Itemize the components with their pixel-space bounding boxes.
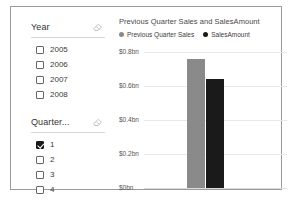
slicer-item-q4[interactable]: 4 bbox=[31, 182, 105, 197]
legend-swatch-icon bbox=[119, 32, 124, 37]
legend-label: SalesAmount bbox=[211, 31, 250, 38]
legend-item-salesamount[interactable]: SalesAmount bbox=[203, 31, 250, 38]
slicer-item-label: 2 bbox=[50, 156, 54, 164]
y-axis-label: $0.8bn bbox=[119, 48, 139, 55]
eraser-icon[interactable] bbox=[92, 21, 103, 32]
slicer-item-q1[interactable]: 1 bbox=[31, 137, 105, 152]
slicer-quarter-items: 1 2 3 4 bbox=[31, 137, 105, 197]
y-axis-label: $0.2bn bbox=[119, 150, 139, 157]
slicer-year-header: Year bbox=[31, 19, 105, 34]
slicer-item-label: 3 bbox=[50, 171, 54, 179]
y-axis-label: $0.4bn bbox=[119, 116, 139, 123]
slicer-item-2005[interactable]: 2005 bbox=[31, 42, 105, 57]
slicer-year-divider bbox=[31, 37, 105, 38]
slicer-year-items: 2005 2006 2007 2008 bbox=[31, 42, 105, 102]
slicer-year-title: Year bbox=[31, 22, 50, 32]
slicer-item-label: 2007 bbox=[50, 76, 68, 84]
slicer-item-2007[interactable]: 2007 bbox=[31, 72, 105, 87]
checkbox-q4[interactable] bbox=[36, 186, 44, 194]
slicer-item-2006[interactable]: 2006 bbox=[31, 57, 105, 72]
slicer-item-2008[interactable]: 2008 bbox=[31, 87, 105, 102]
eraser-icon[interactable] bbox=[92, 116, 103, 127]
report-canvas: Year 2005 2006 2007 bbox=[0, 0, 293, 202]
checkbox-2005[interactable] bbox=[36, 46, 44, 54]
slicer-quarter-header: Quarter... bbox=[31, 114, 105, 129]
bar-salesamount[interactable] bbox=[206, 79, 224, 188]
slicer-item-q3[interactable]: 3 bbox=[31, 167, 105, 182]
slicer-item-label: 2005 bbox=[50, 46, 68, 54]
chart-title: Previous Quarter Sales and SalesAmount bbox=[119, 17, 260, 26]
bar-group bbox=[144, 44, 287, 188]
checkbox-q2[interactable] bbox=[36, 156, 44, 164]
legend-label: Previous Quarter Sales bbox=[127, 31, 194, 38]
checkbox-2007[interactable] bbox=[36, 76, 44, 84]
slicer-quarter[interactable]: Quarter... 1 2 3 bbox=[31, 114, 105, 192]
y-axis-label: $0bn bbox=[119, 184, 133, 191]
bar-previous-quarter-sales[interactable] bbox=[187, 59, 205, 188]
slicer-item-label: 4 bbox=[50, 186, 54, 194]
gridline bbox=[144, 188, 287, 189]
slicer-item-label: 2006 bbox=[50, 61, 68, 69]
slicer-item-label: 2008 bbox=[50, 91, 68, 99]
checkbox-2008[interactable] bbox=[36, 91, 44, 99]
legend-swatch-icon bbox=[203, 32, 208, 37]
checkbox-q1[interactable] bbox=[36, 141, 44, 149]
y-axis-label: $0.6bn bbox=[119, 82, 139, 89]
slicer-year[interactable]: Year 2005 2006 2007 bbox=[31, 19, 105, 105]
report-frame: Year 2005 2006 2007 bbox=[10, 6, 282, 190]
checkbox-2006[interactable] bbox=[36, 61, 44, 69]
plot-area: $0.8bn $0.6bn $0.4bn $0.2bn $0bn bbox=[117, 44, 287, 188]
column-chart-visual[interactable]: Previous Quarter Sales and SalesAmount P… bbox=[117, 17, 287, 192]
slicer-quarter-divider bbox=[31, 132, 105, 133]
slicer-item-q2[interactable]: 2 bbox=[31, 152, 105, 167]
legend-item-previous-quarter-sales[interactable]: Previous Quarter Sales bbox=[119, 31, 194, 38]
slicer-quarter-title: Quarter... bbox=[31, 117, 70, 127]
slicer-item-label: 1 bbox=[50, 141, 54, 149]
chart-legend: Previous Quarter Sales SalesAmount bbox=[119, 31, 250, 38]
checkbox-q3[interactable] bbox=[36, 171, 44, 179]
